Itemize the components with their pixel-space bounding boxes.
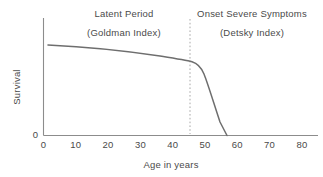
x-tick-label-50: 50 [200, 139, 211, 150]
x-tick-label-60: 60 [232, 139, 243, 150]
chart-canvas: Survival 0 0 10 20 30 40 50 60 70 80 Age… [0, 0, 323, 177]
onset-severe-symptoms-label: Onset Severe Symptoms [197, 8, 307, 19]
x-tick-label-0: 0 [41, 139, 46, 150]
x-axis-title: Age in years [143, 159, 198, 170]
survival-chart: Survival 0 0 10 20 30 40 50 60 70 80 Age… [0, 0, 323, 177]
x-tick-label-80: 80 [296, 139, 307, 150]
x-tick-label-20: 20 [103, 139, 114, 150]
survival-curve-path [48, 45, 227, 136]
detsky-index-label: (Detsky Index) [220, 27, 284, 38]
goldman-index-label: (Goldman Index) [87, 27, 161, 38]
y-axis-title: Survival [11, 69, 22, 104]
x-tick-label-10: 10 [70, 139, 81, 150]
x-tick-label-40: 40 [167, 139, 178, 150]
x-tick-label-30: 30 [135, 139, 146, 150]
x-tick-label-70: 70 [264, 139, 275, 150]
latent-period-label: Latent Period [94, 8, 153, 19]
y-tick-label-0: 0 [33, 129, 38, 140]
